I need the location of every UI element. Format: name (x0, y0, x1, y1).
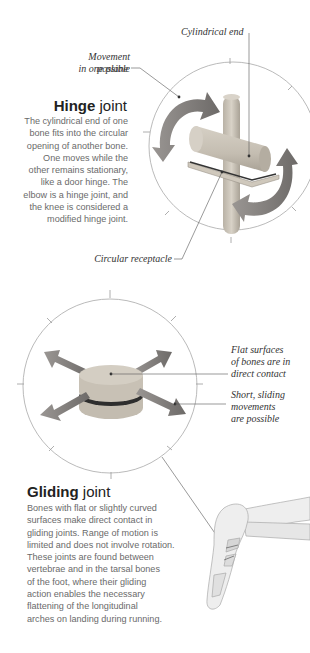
text-line: of the foot, where their gliding (27, 576, 202, 588)
label-line: of bones are in (231, 356, 290, 368)
label-short-sliding: Short, sliding movements are possible (231, 389, 285, 425)
text-line: limited and does not involve rotation. (27, 539, 202, 551)
text-line: surfaces make direct contact in (27, 514, 202, 526)
text-line: modified hinge joint. (0, 213, 128, 225)
gliding-description: Bones with flat or slightly curved surfa… (27, 502, 202, 625)
hinge-title: Hinge joint (20, 97, 127, 115)
text-line: action enables the necessary (27, 588, 202, 600)
label-line: Flat surfaces (231, 344, 290, 356)
text-line: gliding joints. Range of motion is (27, 527, 202, 539)
text-line: One moves while the (0, 152, 128, 164)
gliding-title-rest: joint (79, 483, 111, 500)
foot-skeleton-icon (207, 497, 310, 609)
text-line: bone fits into the circular (0, 127, 128, 139)
label-flat-surfaces: Flat surfaces of bones are in direct con… (231, 344, 290, 380)
text-line: elbow is a hinge joint, and (0, 189, 128, 201)
label-line: Short, sliding (231, 389, 285, 401)
label-circular-receptacle: Circular receptacle (60, 253, 172, 265)
label-line: movements (231, 401, 285, 413)
label-cylindrical-end: Cylindrical end (181, 26, 244, 38)
label-line: are possible (231, 413, 285, 425)
text-line: arches on landing during running. (27, 613, 202, 625)
text-line: other remains stationary, (0, 164, 128, 176)
text-line: The cylindrical end of one (0, 115, 128, 127)
text-line: opening of another bone. (0, 140, 128, 152)
text-line: like a door hinge. The (0, 176, 128, 188)
gliding-title-bold: Gliding (27, 483, 79, 500)
label-line: direct contact (231, 368, 290, 380)
hinge-title-bold: Hinge (54, 97, 96, 114)
text-line: flattening of the longitudinal (27, 600, 202, 612)
text-line: Bones with flat or slightly curved (27, 502, 202, 514)
hinge-description: The cylindrical end of one bone fits int… (0, 115, 128, 226)
gliding-title: Gliding joint (27, 483, 110, 501)
hinge-title-rest: joint (95, 97, 127, 114)
text-line: vertebrae and in the tarsal bones (27, 563, 202, 575)
text-line: the knee is considered a (0, 201, 128, 213)
text-line: These joints are found between (27, 551, 202, 563)
label-movement-line2: in one plane (58, 63, 128, 75)
